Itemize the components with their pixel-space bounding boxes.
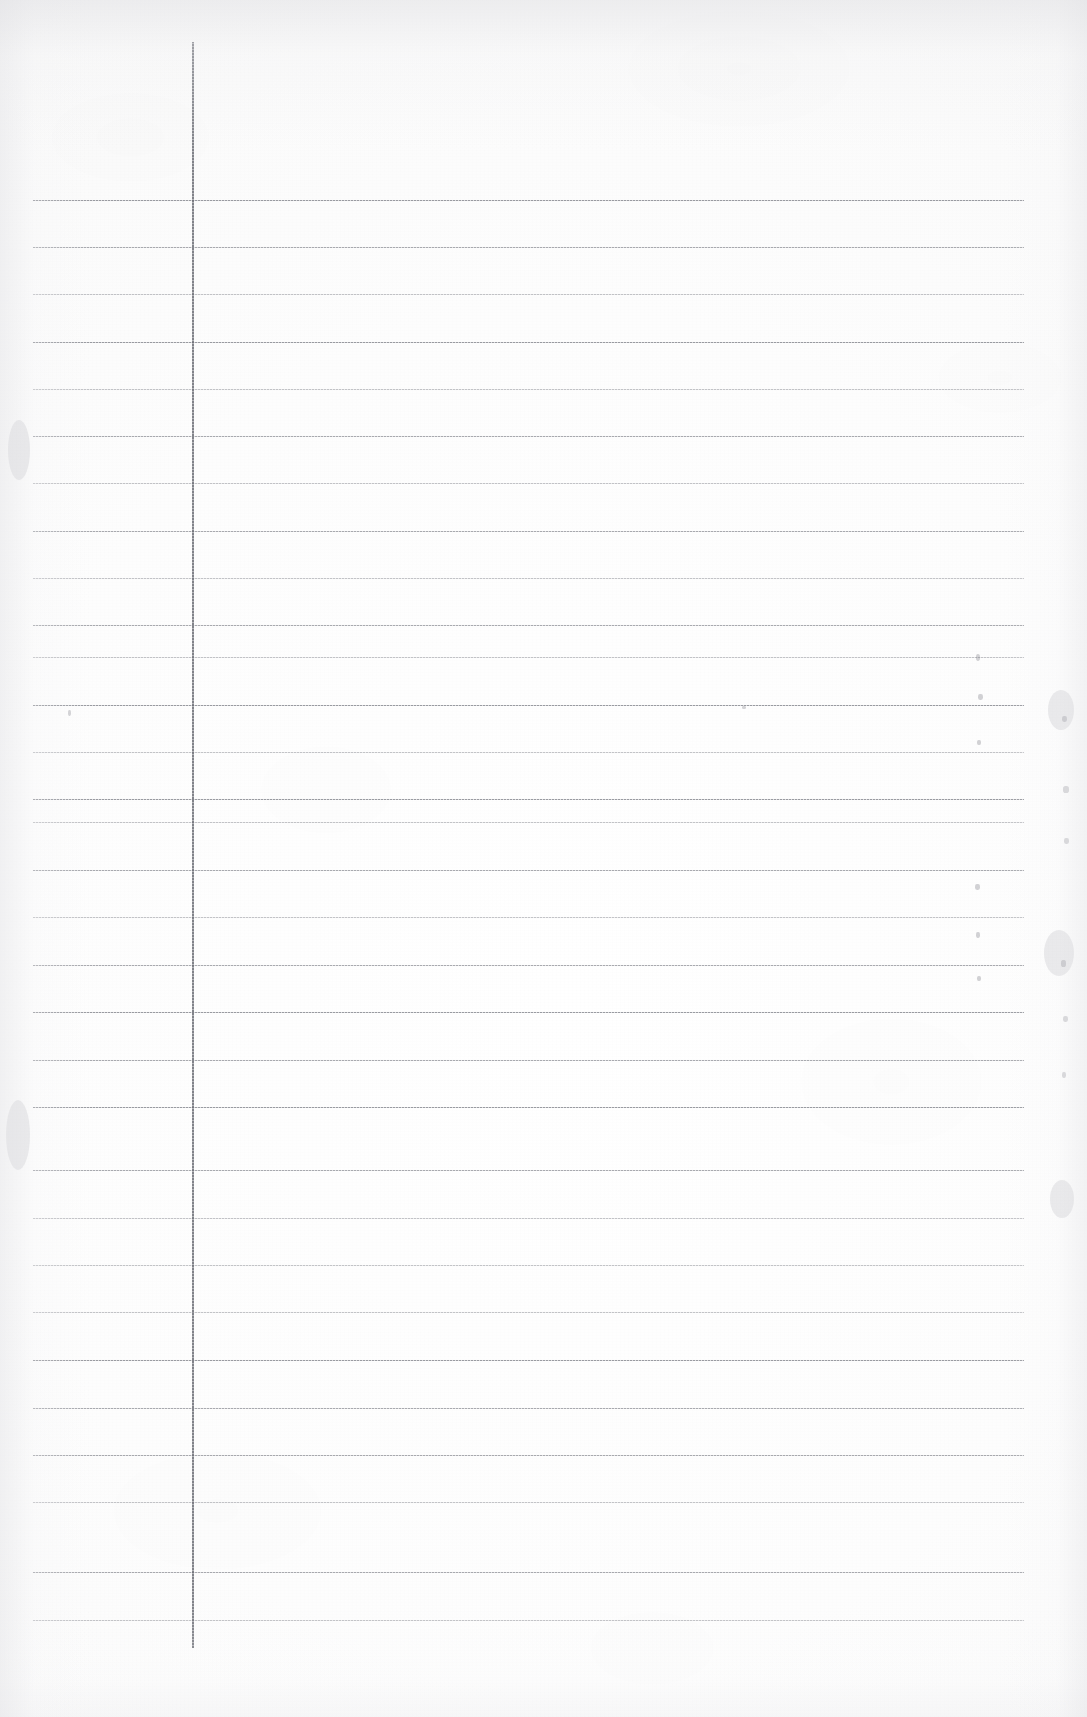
paper-background [0,0,1087,1717]
scanned-page [0,0,1087,1717]
